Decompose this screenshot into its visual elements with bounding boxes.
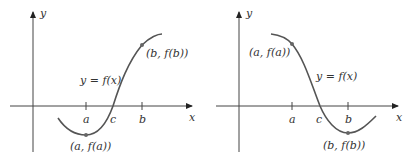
point-b-label: (b, f(b)) bbox=[146, 47, 188, 60]
y-axis-label: y bbox=[39, 7, 47, 20]
tick-label-b: b bbox=[345, 113, 352, 126]
tick-label-a: a bbox=[83, 113, 90, 126]
point-a-label: (a, f(a)) bbox=[70, 140, 111, 153]
point-b bbox=[346, 131, 350, 135]
tick-label-b: b bbox=[139, 113, 146, 126]
x-axis-label: x bbox=[396, 111, 403, 124]
tick-label-c: c bbox=[110, 113, 116, 126]
point-a bbox=[290, 42, 294, 46]
point-b-label: (b, f(b)) bbox=[323, 139, 365, 152]
curve-label: y = f(x) bbox=[315, 70, 357, 83]
ivt-diagram: y x a c b (a, f(a)) (b, f(b)) y = f(x) y… bbox=[0, 0, 410, 161]
curve-label: y = f(x) bbox=[79, 74, 121, 87]
point-a bbox=[84, 133, 88, 137]
y-axis-label: y bbox=[245, 7, 253, 20]
point-b bbox=[140, 43, 144, 47]
right-panel: y x a c b (a, f(a)) (b, f(b)) y = f(x) bbox=[216, 7, 403, 152]
tick-label-c: c bbox=[316, 113, 322, 126]
point-a-label: (a, f(a)) bbox=[249, 46, 290, 59]
x-axis-label: x bbox=[189, 111, 196, 124]
left-panel: y x a c b (a, f(a)) (b, f(b)) y = f(x) bbox=[10, 7, 196, 153]
tick-label-a: a bbox=[289, 113, 296, 126]
